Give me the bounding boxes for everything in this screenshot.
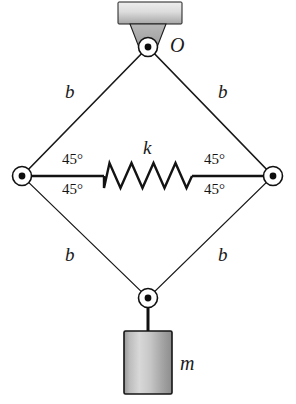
angle-label-right-lower: 45° <box>204 182 225 197</box>
link-label-top-right-b: b <box>218 82 228 101</box>
link-bottom-left <box>17 171 153 302</box>
angle-label-right-upper: 45° <box>204 152 225 167</box>
ceiling-support-bar <box>118 2 182 24</box>
link-label-bottom-right-b: b <box>218 245 228 264</box>
top-pivot-joint <box>139 38 158 57</box>
link-label-bottom-left-b: b <box>65 245 75 264</box>
pivot-label-O: O <box>170 35 184 55</box>
right-joint <box>264 167 283 186</box>
spring-label-k: k <box>143 138 151 157</box>
linkage-diagram-canvas <box>0 0 296 404</box>
mass-label-m: m <box>180 353 194 373</box>
link-label-top-left-b: b <box>65 82 75 101</box>
spring-k <box>22 163 273 188</box>
link-top-left <box>17 42 153 180</box>
angle-label-left-lower: 45° <box>62 182 83 197</box>
left-joint <box>13 167 32 186</box>
angle-label-left-upper: 45° <box>62 152 83 167</box>
bottom-joint <box>139 289 158 308</box>
hanging-mass-block <box>124 331 172 394</box>
linkage-figure: O b b b b k 45° 45° 45° 45° m <box>0 0 296 404</box>
